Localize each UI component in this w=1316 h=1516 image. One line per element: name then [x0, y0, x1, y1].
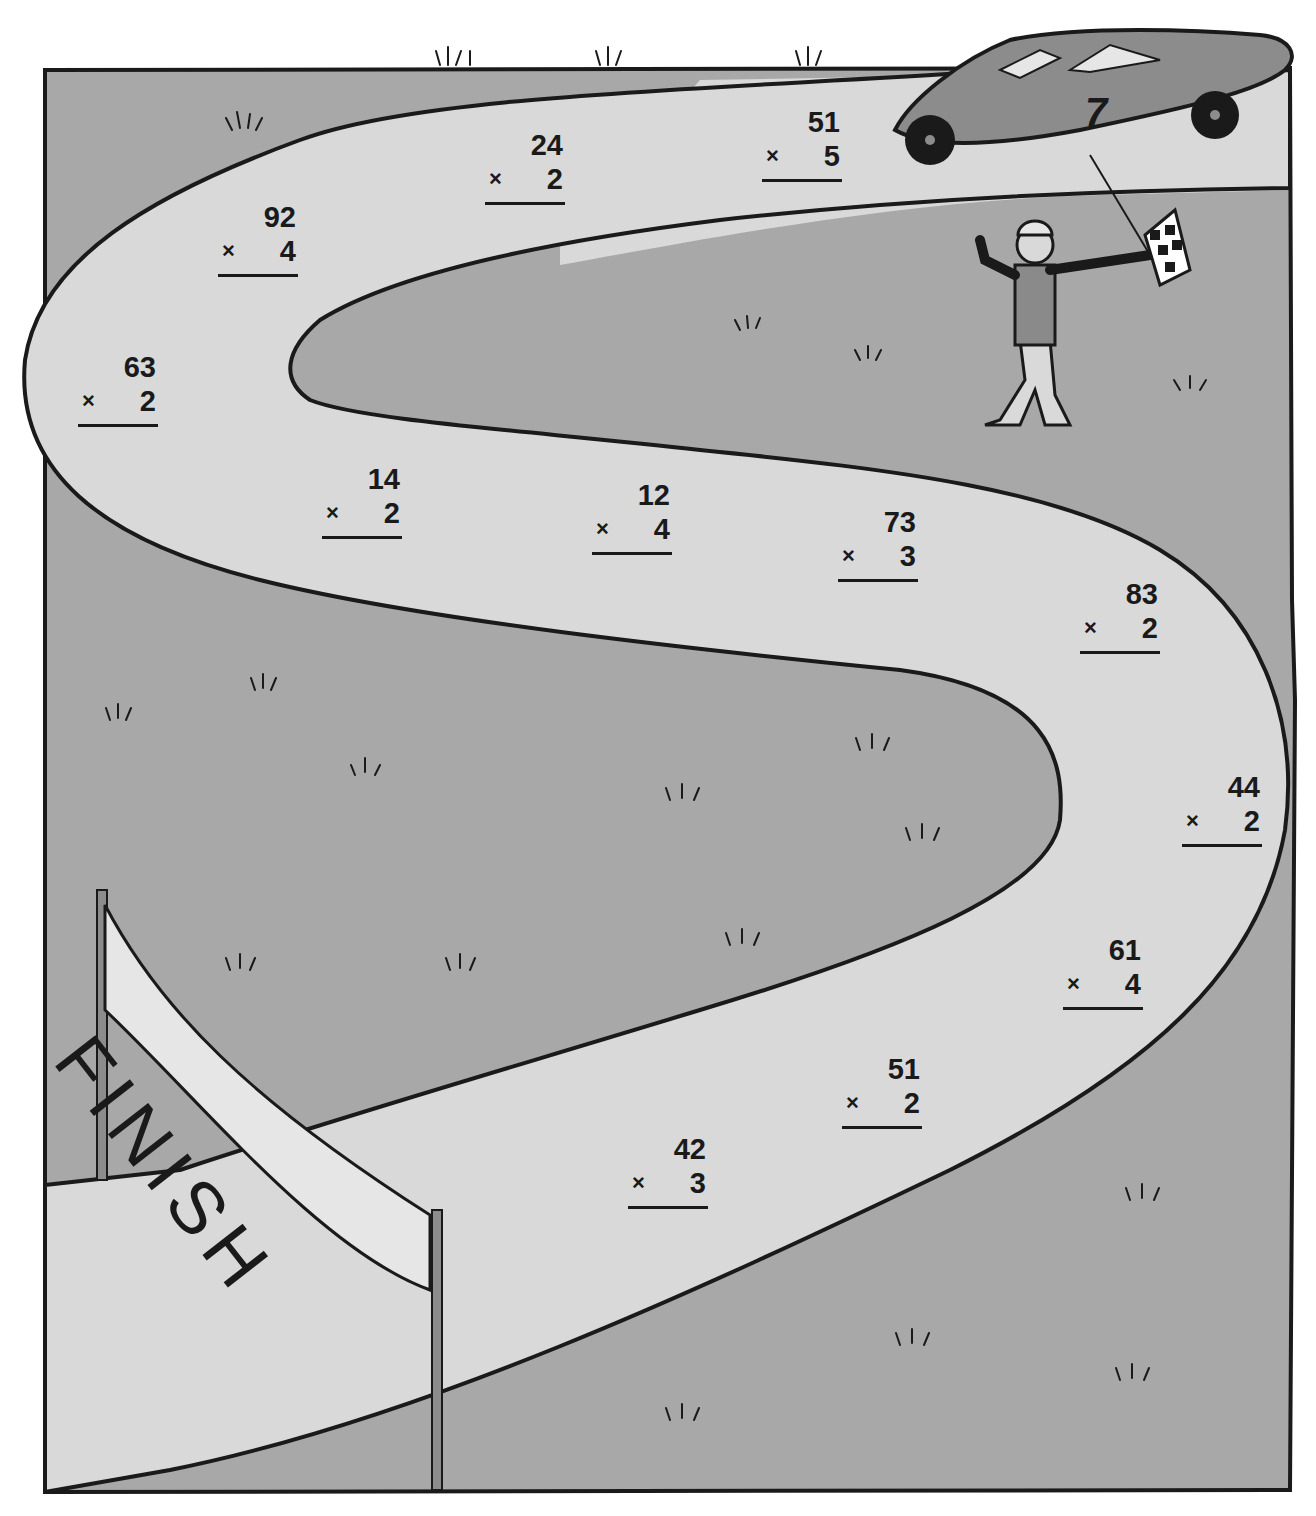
problem-4: 63 ×2	[78, 350, 158, 427]
answer-line	[78, 424, 158, 427]
times-icon: ×	[485, 162, 502, 196]
times-icon: ×	[592, 512, 609, 546]
problem-top: 12	[592, 478, 672, 512]
problem-multiplier: 2	[1244, 804, 1262, 838]
problem-multiplier: 2	[904, 1086, 922, 1120]
problem-top: 24	[485, 128, 565, 162]
answer-line	[1080, 651, 1160, 654]
problem-multiplier: 4	[654, 512, 672, 546]
problem-multiplier: 3	[900, 539, 918, 573]
problem-multiplier: 2	[547, 162, 565, 196]
problem-9: 44 ×2	[1182, 770, 1262, 847]
problem-multiplier: 2	[384, 496, 402, 530]
problem-multiplier: 3	[690, 1166, 708, 1200]
problem-7: 73 ×3	[838, 505, 918, 582]
problem-2: 24 ×2	[485, 128, 565, 205]
race-track-scene	[0, 0, 1316, 1516]
times-icon: ×	[838, 539, 855, 573]
answer-line	[1182, 844, 1262, 847]
problem-top: 63	[78, 350, 158, 384]
car-number: 7	[1085, 90, 1107, 135]
times-icon: ×	[762, 139, 779, 173]
problem-top: 73	[838, 505, 918, 539]
problem-top: 42	[628, 1132, 708, 1166]
times-icon: ×	[842, 1086, 859, 1120]
problem-top: 51	[842, 1052, 922, 1086]
answer-line	[842, 1126, 922, 1129]
problem-top: 44	[1182, 770, 1262, 804]
answer-line	[628, 1206, 708, 1209]
problem-multiplier: 4	[1125, 967, 1143, 1001]
problem-3: 92 ×4	[218, 200, 298, 277]
problem-8: 83 ×2	[1080, 577, 1160, 654]
problem-top: 92	[218, 200, 298, 234]
problem-multiplier: 2	[1142, 611, 1160, 645]
answer-line	[762, 179, 842, 182]
answer-line	[838, 579, 918, 582]
answer-line	[218, 274, 298, 277]
times-icon: ×	[78, 384, 95, 418]
times-icon: ×	[322, 496, 339, 530]
problem-top: 14	[322, 462, 402, 496]
times-icon: ×	[218, 234, 235, 268]
answer-line	[322, 536, 402, 539]
problem-12: 42 ×3	[628, 1132, 708, 1209]
problem-top: 83	[1080, 577, 1160, 611]
problem-top: 51	[762, 105, 842, 139]
times-icon: ×	[1182, 804, 1199, 838]
problem-multiplier: 4	[280, 234, 298, 268]
answer-line	[1063, 1007, 1143, 1010]
times-icon: ×	[1080, 611, 1097, 645]
problem-multiplier: 2	[140, 384, 158, 418]
problem-1: 51 ×5	[762, 105, 842, 182]
answer-line	[485, 202, 565, 205]
problem-10: 61 ×4	[1063, 933, 1143, 1010]
problem-top: 61	[1063, 933, 1143, 967]
problem-5: 14 ×2	[322, 462, 402, 539]
problem-6: 12 ×4	[592, 478, 672, 555]
problem-multiplier: 5	[824, 139, 842, 173]
times-icon: ×	[1063, 967, 1080, 1001]
times-icon: ×	[628, 1166, 645, 1200]
answer-line	[592, 552, 672, 555]
problem-11: 51 ×2	[842, 1052, 922, 1129]
